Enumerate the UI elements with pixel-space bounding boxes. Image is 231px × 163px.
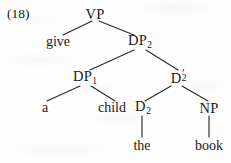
tree-edge-vp-to-give bbox=[63, 21, 92, 35]
tree-node-a: a bbox=[42, 101, 48, 115]
tree-node-book: book bbox=[195, 139, 223, 153]
tree-node-np: NP bbox=[200, 101, 219, 116]
tree-node-vp: VP bbox=[86, 7, 105, 22]
tree-edge-dp1-to-child bbox=[91, 86, 115, 101]
node-index-subscript: 2 bbox=[182, 74, 187, 84]
node-label-text: a bbox=[42, 100, 48, 115]
node-label-text: DP bbox=[128, 32, 147, 48]
tree-node-give: give bbox=[46, 35, 70, 49]
node-label-text: D bbox=[135, 98, 146, 114]
tree-node-d2: D2 bbox=[135, 99, 151, 117]
node-label-text: child bbox=[98, 100, 126, 115]
node-index-subscript: 1 bbox=[92, 76, 97, 86]
tree-node-child: child bbox=[98, 101, 126, 115]
tree-edge-dp2-to-d2bar bbox=[146, 50, 178, 70]
node-index-subscript: 2 bbox=[147, 40, 152, 50]
node-label-text: DP bbox=[73, 68, 92, 84]
node-label-text: NP bbox=[200, 100, 219, 116]
node-label-text: VP bbox=[86, 6, 105, 22]
tree-edge-d2bar-to-np bbox=[182, 86, 208, 101]
tree-node-the: the bbox=[133, 139, 150, 153]
node-label-text: give bbox=[46, 34, 70, 49]
tree-edge-dp2-to-dp1 bbox=[90, 50, 134, 70]
tree-node-dp2: DP2 bbox=[128, 33, 152, 51]
tree-node-d2bar: D′2 bbox=[171, 71, 182, 86]
node-label-text: D′2 bbox=[171, 71, 182, 86]
tree-node-dp1: DP1 bbox=[73, 69, 97, 87]
node-index-subscript: 2 bbox=[146, 106, 151, 116]
node-label-text: the bbox=[133, 138, 150, 153]
syntax-tree-figure: (18) VPgiveDP2DP1D′2achildD2NPthebook bbox=[0, 0, 231, 163]
node-label-text: book bbox=[195, 138, 223, 153]
tree-edge-dp1-to-a bbox=[47, 86, 80, 101]
